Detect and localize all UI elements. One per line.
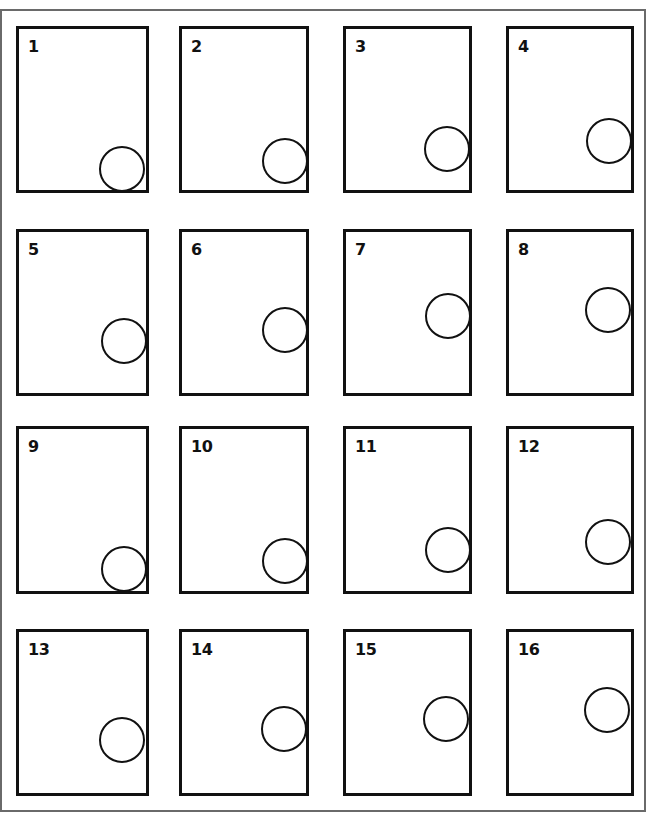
panel-6: 6 xyxy=(179,229,309,396)
panel-number: 7 xyxy=(355,241,366,259)
circle-shape xyxy=(425,527,471,573)
circle-shape xyxy=(585,519,631,565)
panel-3: 3 xyxy=(343,26,472,193)
panel-5: 5 xyxy=(16,229,149,396)
panel-15: 15 xyxy=(343,629,472,796)
panel-8: 8 xyxy=(506,229,634,396)
circle-shape xyxy=(425,293,471,339)
panel-number: 8 xyxy=(518,241,529,259)
circle-shape xyxy=(584,687,630,733)
circle-shape xyxy=(99,146,145,192)
panel-number: 2 xyxy=(191,38,202,56)
panel-number: 3 xyxy=(355,38,366,56)
panel-number: 15 xyxy=(355,641,376,659)
circle-shape xyxy=(261,706,307,752)
panel-1: 1 xyxy=(16,26,149,193)
panel-7: 7 xyxy=(343,229,472,396)
circle-shape xyxy=(424,126,470,172)
panel-number: 14 xyxy=(191,641,212,659)
panel-9: 9 xyxy=(16,426,149,594)
circle-shape xyxy=(101,318,147,364)
circle-shape xyxy=(262,138,308,184)
panel-number: 4 xyxy=(518,38,529,56)
panel-10: 10 xyxy=(179,426,309,594)
panel-number: 9 xyxy=(28,438,39,456)
circle-shape xyxy=(101,546,147,592)
panel-number: 6 xyxy=(191,241,202,259)
circle-shape xyxy=(585,287,631,333)
panel-number: 11 xyxy=(355,438,376,456)
panel-13: 13 xyxy=(16,629,149,796)
panel-14: 14 xyxy=(179,629,309,796)
panel-2: 2 xyxy=(179,26,309,193)
circle-shape xyxy=(423,696,469,742)
panel-number: 5 xyxy=(28,241,39,259)
panel-number: 10 xyxy=(191,438,212,456)
panel-16: 16 xyxy=(506,629,634,796)
panel-4: 4 xyxy=(506,26,634,193)
panel-number: 13 xyxy=(28,641,49,659)
circle-shape xyxy=(262,538,308,584)
panel-number: 16 xyxy=(518,641,539,659)
panel-12: 12 xyxy=(506,426,634,594)
circle-shape xyxy=(262,307,308,353)
circle-shape xyxy=(99,717,145,763)
circle-shape xyxy=(586,118,632,164)
panel-number: 1 xyxy=(28,38,39,56)
panel-11: 11 xyxy=(343,426,472,594)
panel-number: 12 xyxy=(518,438,539,456)
